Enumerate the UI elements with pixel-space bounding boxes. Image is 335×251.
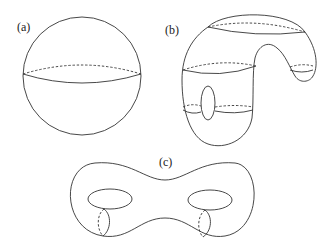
panel-b-label: (b) (165, 23, 179, 37)
right-section-back (290, 65, 313, 67)
left-meridian-front (103, 209, 110, 236)
panel-a-label: (a) (17, 20, 30, 34)
handle-hole (201, 86, 215, 120)
right-section-front (290, 70, 313, 72)
right-hole (188, 190, 232, 210)
panel-c-label: (c) (159, 155, 172, 169)
double-torus-outline (70, 163, 254, 237)
panel-b: (b) (165, 15, 316, 146)
panel-c: (c) (70, 155, 254, 237)
panel-a: (a) (17, 17, 141, 135)
top-section-back (208, 23, 305, 32)
lower-right-section-back (215, 106, 253, 108)
surface-b-outline (182, 15, 316, 146)
left-hole (88, 189, 132, 209)
lower-right-section-front (215, 110, 253, 113)
mid-section-back (183, 63, 256, 70)
sphere-outline (23, 17, 141, 135)
sphere-equator-front (23, 74, 141, 83)
top-section-front (208, 27, 305, 34)
sphere-equator-back (23, 65, 141, 74)
lower-left-section-back (183, 105, 201, 107)
mid-section-front (183, 66, 256, 74)
left-meridian-back (98, 209, 104, 236)
figure-canvas: (a) (b) (c) (0, 0, 335, 251)
